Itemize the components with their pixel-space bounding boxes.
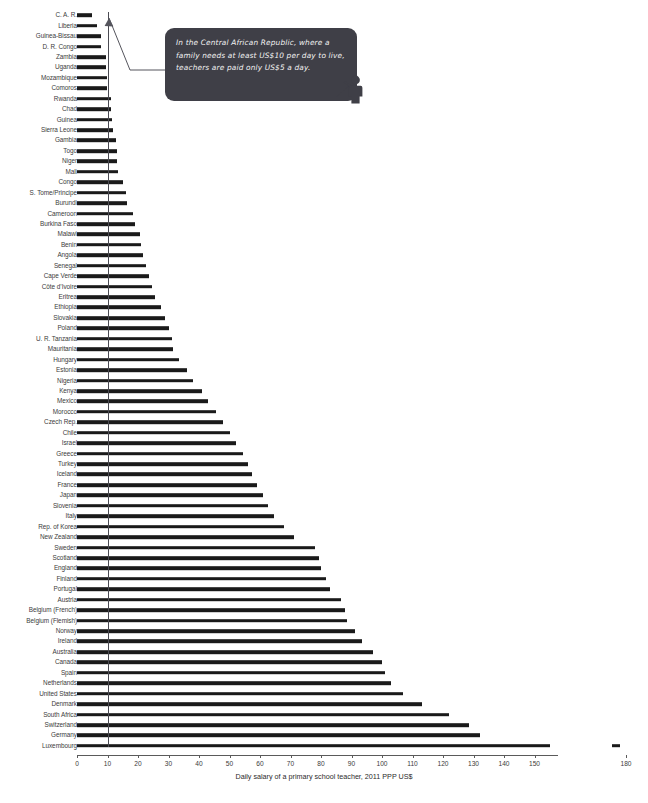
chart-row: Benin [0,240,648,250]
bar [77,201,127,205]
x-axis-tick [260,755,261,758]
chart-figure: C. A. R.LiberiaGuinea-BissauD. R. CongoZ… [0,0,648,803]
bar [77,191,126,195]
category-label: Togo [63,148,77,155]
category-label: S. Tome/Principe [30,189,77,196]
bar [77,76,107,80]
x-axis-tick-label: 130 [468,760,479,767]
chart-row: Congo [0,177,648,187]
x-axis-tick [138,755,139,758]
category-label: Zambia [56,54,77,61]
category-label: South Africa [43,711,77,718]
bar [77,671,385,675]
chart-row: Australia [0,647,648,657]
bar [77,514,274,518]
x-axis-tick-label: 0 [75,760,79,767]
bar [77,567,321,571]
bar [77,681,391,685]
x-axis-tick [443,755,444,758]
bar [77,295,155,299]
category-label: Mexico [57,398,77,405]
chart-row: Germany [0,730,648,740]
bar [77,702,422,706]
bar [77,400,208,404]
category-label: Rep. of Korea [38,523,77,530]
chart-row: Belgium (French) [0,605,648,615]
x-axis-tick-label: 180 [620,760,631,767]
chart-row: Mexico [0,396,648,406]
bar [77,253,143,257]
x-axis-tick [382,755,383,758]
chart-row: Morocco [0,407,648,417]
chart-row: Angola [0,250,648,260]
bar [77,473,252,477]
category-label: Sierra Leone [41,127,77,134]
chart-row: Turkey [0,459,648,469]
category-label: Morocco [53,409,77,416]
chart-row: Côte d’Ivoire [0,281,648,291]
bar [77,86,107,90]
category-label: Congo [58,179,77,186]
chart-row: C. A. R. [0,10,648,20]
x-axis-tick-label: 70 [287,760,294,767]
bar [77,441,236,445]
chart-row: Poland [0,323,648,333]
category-label: Mali [65,168,77,175]
chart-row: Ireland [0,636,648,646]
chart-row: Japan [0,490,648,500]
callout-leader-line [100,14,175,74]
callout-bubble: In the Central African Republic, where a… [165,28,357,101]
bar [77,389,202,393]
chart-row: Mauritania [0,344,648,354]
chart-row: Burkina Faso [0,219,648,229]
chart-row: Iceland [0,469,648,479]
category-label: Burkina Faso [40,221,77,228]
chart-row: Cameroon [0,208,648,218]
x-axis-tick [352,755,353,758]
chart-row: Togo [0,146,648,156]
bar [77,431,230,435]
chart-row: Chile [0,428,648,438]
category-label: Angola [57,252,77,259]
category-label: Malawi [57,231,77,238]
x-axis-tick-label: 20 [134,760,141,767]
category-label: Comoros [51,85,77,92]
x-axis-tick [535,755,536,758]
bar [77,546,315,550]
bar [77,723,469,727]
category-label: Switzerland [45,722,77,729]
chart-row: New Zealand [0,532,648,542]
x-axis-tick-label: 120 [437,760,448,767]
bar [77,608,345,612]
category-label: Italy [66,513,77,520]
category-label: Finland [56,576,77,583]
chart-row: Eritrea [0,292,648,302]
chart-row: Italy [0,511,648,521]
category-label: Guinea-Bissau [36,33,77,40]
callout-text: In the Central African Republic, where a… [176,37,348,75]
x-axis-tick [321,755,322,758]
chart-row: Rep. of Korea [0,521,648,531]
x-axis-tick-label: 110 [407,760,418,767]
x-axis-tick [230,755,231,758]
category-label: Ireland [58,638,77,645]
bar [77,222,135,226]
category-label: Eritrea [59,294,77,301]
category-label: Mauritania [48,346,77,353]
chart-row: Denmark [0,699,648,709]
x-axis-line [77,755,558,756]
category-label: Spain [61,669,77,676]
category-label: Cameroon [48,210,77,217]
bar [77,650,373,654]
chart-row: Israel [0,438,648,448]
category-label: United States [39,690,77,697]
category-label: Mozambique [41,75,77,82]
bar [77,327,169,331]
chart-row: Scotland [0,553,648,563]
category-label: Niger [62,158,77,165]
chart-row: Senegal [0,261,648,271]
category-label: New Zealand [40,534,77,541]
category-label: Canada [55,659,77,666]
bar [77,577,326,581]
bar [77,629,355,633]
